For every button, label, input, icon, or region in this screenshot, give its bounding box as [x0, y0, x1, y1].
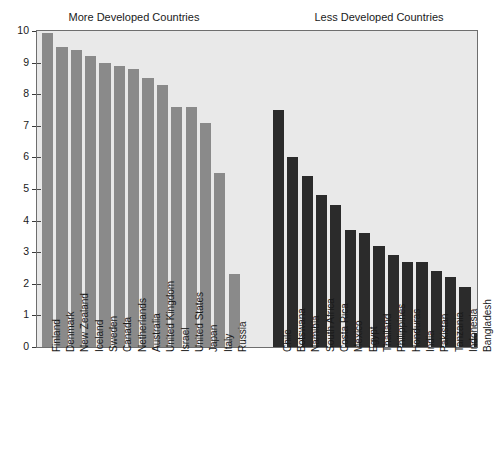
x-axis-tick-label: Chile: [282, 329, 293, 352]
x-axis-tick-label: Pakistan: [439, 314, 450, 352]
x-axis-tick-label: Japan: [208, 325, 219, 352]
x-axis-tick-label: Egypt: [368, 326, 379, 352]
x-axis-tick-label: Indonesia: [468, 309, 479, 352]
y-axis-inner-tick: [37, 94, 41, 95]
bar: [114, 66, 125, 347]
plot-area: [36, 30, 478, 348]
panel-title-less-developed: Less Developed Countries: [280, 11, 478, 24]
x-axis-tick-label: Netherlands: [137, 298, 148, 352]
x-axis-tick-label: Denmark: [65, 311, 76, 352]
y-axis-tick-label: 8: [23, 87, 29, 100]
x-axis-tick-label: Israel: [180, 328, 191, 352]
y-axis-inner-tick: [37, 252, 41, 253]
y-axis-tick-label: 7: [23, 119, 29, 132]
y-axis-tick-label: 5: [23, 182, 29, 195]
x-axis-tick-label: Namibia: [310, 315, 321, 352]
x-axis-tick-label: Tanzania: [454, 312, 465, 352]
y-axis-tick-label: 6: [23, 150, 29, 163]
bar: [273, 110, 284, 347]
x-axis-tick-label: Finland: [51, 319, 62, 352]
x-axis-tick-label: United States: [194, 292, 205, 352]
bar-chart: More Developed Countries Less Developed …: [0, 0, 502, 456]
y-axis-tick-label: 9: [23, 56, 29, 69]
y-axis-inner-tick: [37, 157, 41, 158]
y-axis-tick-label: 2: [23, 277, 29, 290]
x-axis-labels: FinlandDenmarkNew ZealandIcelandSwedenCa…: [36, 348, 478, 456]
x-axis-tick-label: Bangladesh: [482, 299, 493, 352]
y-axis: 012345678910: [0, 30, 36, 348]
y-axis-inner-tick: [37, 189, 41, 190]
x-axis-tick-label: Costa Rica: [339, 303, 350, 352]
y-axis-tick-label: 0: [23, 340, 29, 353]
x-axis-tick-label: India: [425, 330, 436, 352]
x-axis-tick-label: Iceland: [94, 320, 105, 352]
bar: [42, 33, 53, 347]
y-axis-inner-tick: [37, 315, 41, 316]
y-axis-tick-label: 10: [17, 24, 29, 37]
bar: [56, 47, 67, 347]
y-axis-inner-tick: [37, 284, 41, 285]
x-axis-tick-label: Philippines: [396, 304, 407, 352]
x-axis-tick-label: Australia: [151, 313, 162, 352]
y-axis-tick-label: 1: [23, 308, 29, 321]
y-axis-inner-tick: [37, 63, 41, 64]
y-axis-tick-label: 3: [23, 245, 29, 258]
x-axis-tick-label: South Africa: [325, 298, 336, 352]
panel-title-more-developed: More Developed Countries: [36, 11, 232, 24]
y-axis-tick-label: 4: [23, 214, 29, 227]
x-axis-tick-label: New Zealand: [79, 293, 90, 352]
y-axis-inner-tick: [37, 221, 41, 222]
x-axis-tick-label: Russia: [237, 321, 248, 352]
x-axis-tick-label: Italy: [223, 334, 234, 352]
bar: [99, 63, 110, 347]
x-axis-tick-label: Canada: [122, 317, 133, 352]
bar: [214, 173, 225, 347]
x-axis-tick-label: Honduras: [411, 309, 422, 352]
x-axis-tick-label: Mexico: [353, 320, 364, 352]
x-axis-tick-label: Sweden: [108, 316, 119, 352]
x-axis-tick-label: Thailand: [382, 314, 393, 352]
y-axis-inner-tick: [37, 126, 41, 127]
x-axis-tick-label: Botswana: [296, 308, 307, 352]
x-axis-tick-label: United Kingdom: [165, 281, 176, 352]
